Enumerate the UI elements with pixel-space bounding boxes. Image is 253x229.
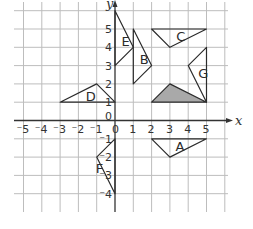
y-tick-label: 4 bbox=[105, 41, 112, 54]
x-tick-label: 2 bbox=[148, 123, 155, 136]
y-tick-label: 3 bbox=[105, 60, 112, 73]
x-tick-label: 3 bbox=[166, 123, 173, 136]
x-tick-label: ⁻5 bbox=[17, 123, 30, 136]
x-tick-label: ⁻3 bbox=[53, 123, 66, 136]
x-tick-label: ⁻4 bbox=[35, 123, 48, 136]
shape-label-c: C bbox=[176, 29, 185, 44]
shape-label-a: A bbox=[175, 139, 184, 154]
y-tick-label: 1 bbox=[105, 96, 112, 109]
x-tick-label: 4 bbox=[184, 123, 191, 136]
y-tick-label: ⁻4 bbox=[99, 188, 112, 201]
y-tick-label: 0 bbox=[105, 110, 112, 123]
x-tick-label: 5 bbox=[203, 123, 210, 136]
shape-label-d: D bbox=[86, 89, 96, 104]
x-axis-label: x bbox=[235, 113, 243, 128]
tick-labels: xy⁻5⁻4⁻3⁻2⁻1012345543210⁻1⁻2⁻3⁻4 bbox=[17, 0, 244, 201]
y-axis-label: y bbox=[105, 0, 114, 11]
shape-label-e: E bbox=[121, 34, 129, 49]
grid-canvas: ABCDEFG xy⁻5⁻4⁻3⁻2⁻1012345543210⁻1⁻2⁻3⁻4 bbox=[0, 0, 253, 229]
shape-label-g: G bbox=[198, 66, 208, 81]
y-tick-label: 5 bbox=[105, 23, 112, 36]
shape-label-b: B bbox=[140, 52, 149, 67]
x-tick-label: 0 bbox=[112, 123, 119, 136]
y-tick-label: ⁻1 bbox=[99, 133, 112, 146]
x-axis-arrow-icon bbox=[226, 118, 233, 123]
y-tick-label: 2 bbox=[105, 78, 112, 91]
y-tick-label: ⁻2 bbox=[99, 151, 112, 164]
y-tick-label: ⁻3 bbox=[99, 169, 112, 182]
x-tick-label: 1 bbox=[129, 123, 136, 136]
x-tick-label: ⁻2 bbox=[71, 123, 84, 136]
coordinate-grid-diagram: ABCDEFG xy⁻5⁻4⁻3⁻2⁻1012345543210⁻1⁻2⁻3⁻4 bbox=[0, 0, 253, 229]
